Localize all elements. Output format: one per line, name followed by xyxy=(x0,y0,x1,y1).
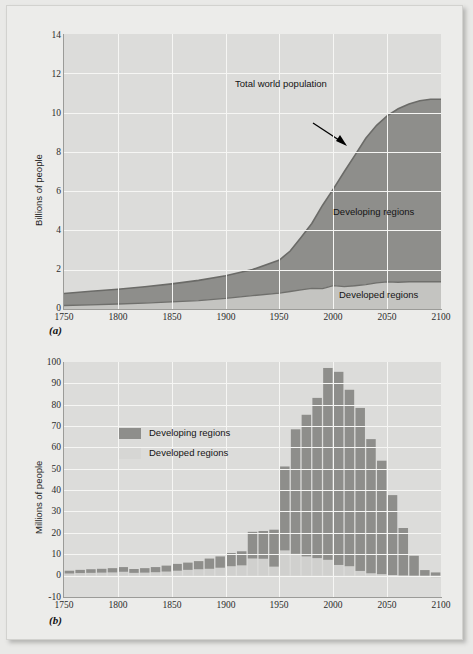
panel-a-annotation-total: Total world population xyxy=(235,78,327,89)
bar-developing xyxy=(65,571,74,574)
vgridline-b-2050 xyxy=(387,362,388,597)
gridline-b-50 xyxy=(64,469,441,470)
bar-developing xyxy=(119,567,128,572)
bar-developed xyxy=(334,565,343,576)
bar-developed xyxy=(237,565,246,575)
panel-b-ytick-70: 70 xyxy=(31,421,61,431)
vgridline-a-2000 xyxy=(333,34,334,309)
panel-a: Billions of people 0 2 4 6 8 10 12 14 xyxy=(7,6,462,336)
vgridline-b-1950 xyxy=(279,362,280,597)
panel-b-ytick-100: 100 xyxy=(31,357,61,367)
panel-a-xtick-1800: 1800 xyxy=(102,312,134,322)
vgridline-a-1800 xyxy=(118,34,119,309)
bar-developing xyxy=(377,461,386,574)
vgridline-b-1800 xyxy=(118,362,119,597)
panel-b-xtick-1800: 1800 xyxy=(102,600,134,610)
panel-b-yaxis xyxy=(63,362,64,598)
gridline-b-0 xyxy=(64,576,441,577)
panel-b-xtick-1950: 1950 xyxy=(263,600,295,610)
bar-developing xyxy=(86,569,95,573)
panel-a-annotation-developed: Developed regions xyxy=(339,289,418,300)
panel-a-xtick-1950: 1950 xyxy=(263,312,295,322)
gridline-a-10 xyxy=(64,113,441,114)
bar-developing xyxy=(172,564,181,571)
panel-a-xtick-2100: 2100 xyxy=(425,312,457,322)
bar-developing xyxy=(97,569,106,573)
bar-developed xyxy=(323,560,332,576)
vgridline-a-1900 xyxy=(226,34,227,309)
panel-b-ytick-10: 10 xyxy=(31,549,61,559)
panel-a-xtick-1900: 1900 xyxy=(210,312,242,322)
bar-developing xyxy=(205,559,214,569)
vgridline-a-1850 xyxy=(172,34,173,309)
panel-b-ytick-40: 40 xyxy=(31,485,61,495)
panel-a-ytick-14: 14 xyxy=(35,30,61,40)
gridline-a-8 xyxy=(64,152,441,153)
bar-developed xyxy=(259,559,268,576)
bar-developed xyxy=(291,554,300,576)
bar-developed xyxy=(205,569,214,576)
bar-developed xyxy=(248,559,257,576)
panel-a-ytick-8: 8 xyxy=(37,147,61,157)
gridline-a-6 xyxy=(64,191,441,192)
bar-developed xyxy=(215,568,224,576)
gridline-a-2 xyxy=(64,270,441,271)
vgridline-b-1900 xyxy=(226,362,227,597)
panel-b-ytick-80: 80 xyxy=(31,400,61,410)
panel-b-plot-area xyxy=(64,362,441,597)
bar-developed xyxy=(345,566,354,575)
panel-a-yaxis xyxy=(63,34,64,310)
panel-b-xtick-1750: 1750 xyxy=(48,600,80,610)
vgridline-b-2000 xyxy=(333,362,334,597)
gridline-b-40 xyxy=(64,490,441,491)
gridline-b-80 xyxy=(64,405,441,406)
vgridline-a-2050 xyxy=(387,34,388,309)
bar-developing xyxy=(409,556,418,576)
panel-a-area-chart xyxy=(64,34,441,309)
panel-b-xtick-2000: 2000 xyxy=(317,600,349,610)
panel-b-xtick-1850: 1850 xyxy=(156,600,188,610)
bar-developing xyxy=(129,569,138,573)
bar-developing xyxy=(162,566,171,572)
legend-label-developing: Developing regions xyxy=(149,427,230,438)
bar-developed xyxy=(226,566,235,575)
panel-a-label: (a) xyxy=(49,324,62,336)
total-population-arrow xyxy=(313,123,347,146)
bar-developing xyxy=(151,567,160,572)
gridline-a-4 xyxy=(64,230,441,231)
panel-b-bar-chart xyxy=(64,362,441,597)
bar-developing xyxy=(140,568,149,572)
gridline-b-10 xyxy=(64,554,441,555)
bar-developing xyxy=(269,530,278,567)
panel-b-xtick-2050: 2050 xyxy=(371,600,403,610)
bar-developed xyxy=(172,571,181,576)
bar-developed xyxy=(312,558,321,576)
panel-b-ytick-20: 20 xyxy=(31,528,61,538)
gridline-a-12 xyxy=(64,73,441,74)
legend-swatch-developing xyxy=(119,428,141,439)
bar-developed xyxy=(183,570,192,576)
gridline-b-70 xyxy=(64,426,441,427)
bar-developing xyxy=(183,563,192,570)
vgridline-a-1950 xyxy=(279,34,280,309)
panel-a-xtick-1850: 1850 xyxy=(156,312,188,322)
bar-developing xyxy=(312,398,321,558)
figure-container: Billions of people 0 2 4 6 8 10 12 14 xyxy=(0,0,473,654)
bar-developing xyxy=(345,390,354,566)
panel-a-xtick-2000: 2000 xyxy=(317,312,349,322)
panel-b-ytick-0: 0 xyxy=(31,570,61,580)
developing-area xyxy=(64,99,441,305)
bar-developing xyxy=(399,528,408,575)
panel-a-plot-area xyxy=(64,34,441,309)
gridline-b-90 xyxy=(64,383,441,384)
panel-a-ytick-12: 12 xyxy=(35,69,61,79)
bar-developing xyxy=(420,570,429,576)
panel-a-ytick-2: 2 xyxy=(37,264,61,274)
panel-b-xtick-2100: 2100 xyxy=(425,600,457,610)
panel-b-ytick-90: 90 xyxy=(31,378,61,388)
bar-developing xyxy=(280,466,289,550)
panel-b-ytick-30: 30 xyxy=(31,506,61,516)
panel-a-xaxis xyxy=(63,309,442,310)
panel-a-ytick-10: 10 xyxy=(35,108,61,118)
gridline-b-20 xyxy=(64,533,441,534)
